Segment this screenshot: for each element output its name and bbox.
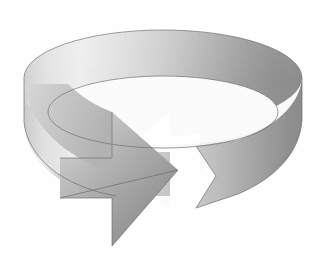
circular-arrow-illustration: [0, 0, 327, 258]
image-canvas: [0, 0, 327, 258]
